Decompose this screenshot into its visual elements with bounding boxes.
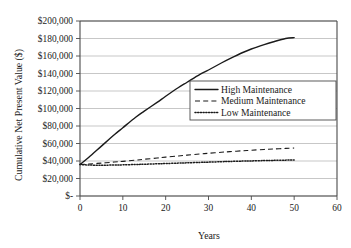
y-axis-tick-label: $-	[65, 191, 73, 201]
legend-label-high-maintenance: High Maintenance	[221, 84, 292, 95]
line-chart-canvas: $-$20,000$40,000$60,000$80,000$100,000$1…	[0, 0, 351, 248]
chart-figure: $-$20,000$40,000$60,000$80,000$100,000$1…	[0, 0, 351, 248]
x-axis-tick-label: 40	[247, 203, 257, 213]
x-axis-tick-label: 20	[161, 203, 171, 213]
y-axis-tick-label: $60,000	[43, 139, 74, 149]
y-axis-tick-label: $40,000	[43, 156, 74, 166]
series-line-medium-maintenance	[80, 148, 294, 164]
x-axis-tick-label: 30	[204, 203, 214, 213]
y-axis-title: Cumulative Net Present Value ($)	[13, 49, 25, 181]
y-axis-tick-label: $120,000	[38, 86, 73, 96]
y-axis-tick-labels: $-$20,000$40,000$60,000$80,000$100,000$1…	[38, 16, 73, 201]
x-axis-tick-labels: 0102030405060	[78, 203, 342, 213]
x-axis-tick-label: 60	[332, 203, 342, 213]
legend-label-medium-maintenance: Medium Maintenance	[221, 95, 305, 106]
y-axis-tick-label: $100,000	[38, 104, 73, 114]
legend: High MaintenanceMedium MaintenanceLow Ma…	[190, 81, 336, 120]
y-axis-tick-label: $20,000	[43, 174, 74, 184]
y-axis-tick-label: $200,000	[38, 16, 73, 26]
x-axis-tick-label: 0	[78, 203, 83, 213]
legend-label-low-maintenance: Low Maintenance	[221, 107, 291, 118]
x-axis-title: Years	[198, 230, 220, 241]
y-axis-tick-label: $160,000	[38, 51, 73, 61]
y-axis-tick-label: $180,000	[38, 34, 73, 44]
y-axis-tick-label: $80,000	[43, 121, 74, 131]
x-axis-tick-label: 10	[118, 203, 128, 213]
x-axis-tick-label: 50	[289, 203, 299, 213]
y-axis-tick-label: $140,000	[38, 69, 73, 79]
